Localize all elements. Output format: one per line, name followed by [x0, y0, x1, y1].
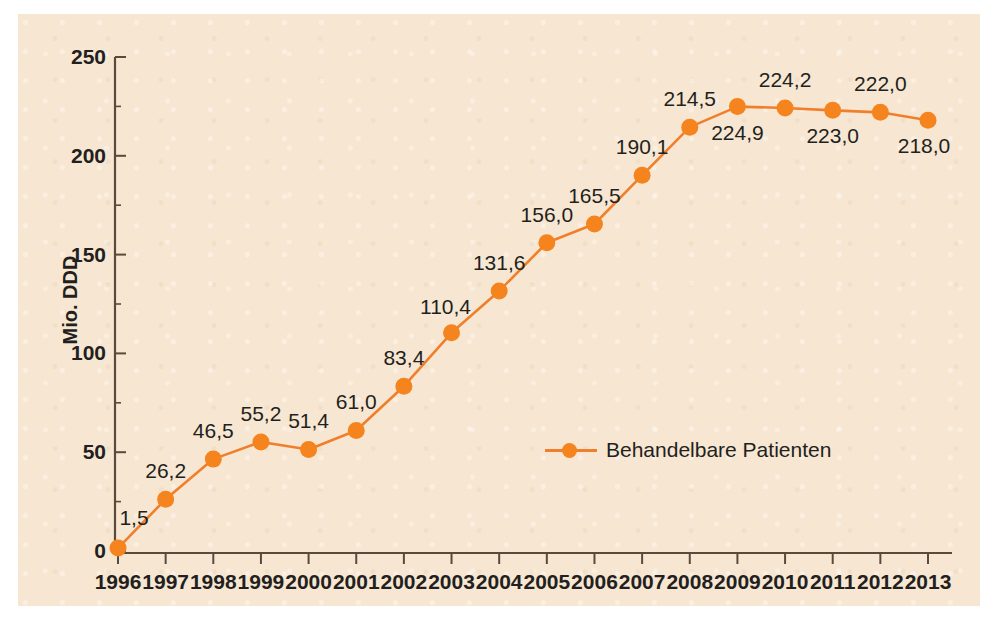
data-point-value-label: 222,0: [854, 72, 907, 96]
data-point-value-label: 46,5: [193, 419, 234, 443]
x-axis-tick-label: 1999: [238, 570, 285, 594]
data-point-marker: [586, 215, 603, 232]
data-point-marker: [634, 167, 651, 184]
data-point-value-label: 190,1: [616, 135, 669, 159]
data-point-marker: [920, 112, 937, 129]
x-axis-tick-label: 2003: [428, 570, 475, 594]
x-axis-tick-label: 2013: [905, 570, 952, 594]
data-point-marker: [491, 282, 508, 299]
x-axis-tick-label: 2012: [857, 570, 904, 594]
data-point-marker: [681, 119, 698, 136]
y-axis-title: Mio. DDD: [59, 256, 82, 345]
data-point-value-label: 1,5: [119, 506, 148, 530]
data-point-marker: [777, 99, 794, 116]
data-point-marker: [395, 378, 412, 395]
y-axis-tick-label: 200: [0, 144, 106, 168]
legend-label: Behandelbare Patienten: [606, 438, 831, 462]
data-point-value-label: 223,0: [806, 124, 859, 148]
x-axis-tick-label: 2007: [619, 570, 666, 594]
data-series-line: [118, 107, 928, 548]
legend-marker-icon: [545, 441, 597, 459]
data-point-markers: [110, 98, 937, 556]
data-point-value-label: 61,0: [336, 390, 377, 414]
line-chart-plot: [0, 0, 994, 625]
data-point-marker: [824, 102, 841, 119]
data-point-value-label: 218,0: [898, 134, 951, 158]
data-point-value-label: 224,9: [711, 121, 764, 145]
x-axis-tick-label: 2008: [666, 570, 713, 594]
data-point-marker: [443, 324, 460, 341]
y-axis-tick-label: 50: [0, 440, 106, 464]
x-axis-tick-label: 2010: [762, 570, 809, 594]
y-axis-tick-label: 150: [0, 243, 106, 267]
data-point-marker: [110, 540, 127, 557]
data-point-marker: [157, 491, 174, 508]
data-point-marker: [729, 98, 746, 115]
data-point-marker: [205, 451, 222, 468]
chart-legend: Behandelbare Patienten: [545, 438, 831, 462]
x-axis-tick-label: 2005: [523, 570, 570, 594]
data-point-value-label: 110,4: [420, 295, 471, 319]
chart-figure: 050100150200250 199619971998199920002001…: [0, 0, 994, 625]
y-axis-tick-label: 100: [0, 341, 106, 365]
x-axis-tick-label: 2006: [571, 570, 618, 594]
y-axis-tick-label: 0: [0, 539, 106, 563]
data-point-marker: [252, 433, 269, 450]
data-point-value-label: 156,0: [521, 203, 574, 227]
x-axis-tick-label: 2011: [810, 570, 856, 594]
data-point-value-label: 214,5: [663, 87, 716, 111]
data-point-value-label: 26,2: [145, 459, 186, 483]
data-point-value-label: 83,4: [383, 346, 424, 370]
data-point-value-label: 224,2: [759, 68, 812, 92]
data-point-value-label: 131,6: [473, 251, 526, 275]
x-axis-tick-label: 2000: [285, 570, 332, 594]
data-point-value-label: 55,2: [241, 402, 282, 426]
x-axis-ticks: [118, 553, 928, 564]
data-point-marker: [300, 441, 317, 458]
x-axis-tick-label: 1996: [95, 570, 142, 594]
data-point-marker: [348, 422, 365, 439]
y-axis-ticks: [115, 57, 126, 551]
data-point-value-label: 165,5: [568, 184, 621, 208]
data-point-value-label: 51,4: [288, 409, 329, 433]
x-axis-tick-label: 2004: [476, 570, 523, 594]
x-axis-tick-label: 2009: [714, 570, 761, 594]
x-axis-tick-label: 2002: [381, 570, 428, 594]
data-point-marker: [538, 234, 555, 251]
x-axis-tick-label: 2001: [333, 570, 380, 594]
x-axis-tick-label: 1997: [142, 570, 189, 594]
x-axis-tick-label: 1998: [190, 570, 237, 594]
y-axis-tick-label: 250: [0, 45, 106, 69]
data-point-marker: [872, 104, 889, 121]
